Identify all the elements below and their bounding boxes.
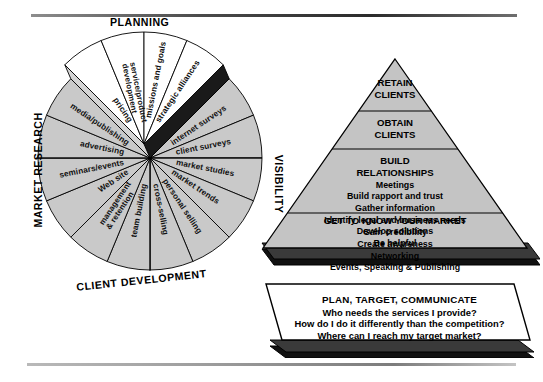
diagram-canvas: pricingservice/product developmentmissio… bbox=[0, 0, 543, 382]
pyramid-obtain-clients-heading-1: CLIENTS bbox=[250, 129, 540, 140]
pyramid-retain-clients-heading-0: RETAIN bbox=[250, 77, 540, 88]
pyramid-get-to-know-your-market-item-2: Networking bbox=[250, 251, 540, 262]
banner-title: PLAN, TARGET, COMMUNICATE bbox=[262, 294, 537, 305]
banner-question-1: How do I do it differently than the comp… bbox=[262, 318, 537, 329]
wheel-section-label-planning: PLANNING bbox=[110, 16, 169, 28]
strategy-wheel: pricingservice/product developmentmissio… bbox=[14, 18, 284, 288]
pyramid-obtain-clients-heading-0: OBTAIN bbox=[250, 117, 540, 128]
pyramid-get-to-know-your-market-item-3: Events, Speaking & Publishing bbox=[250, 262, 540, 273]
pyramid-build-relationships-item-2: Gather information bbox=[250, 203, 540, 214]
strategy-wheel-svg bbox=[14, 18, 284, 288]
pyramid-build-relationships-item-1: Build rapport and trust bbox=[250, 191, 540, 202]
pyramid-build-relationships-item-0: Meetings bbox=[250, 180, 540, 191]
banner-question-0: Who needs the services I provide? bbox=[262, 307, 537, 318]
pyramid-retain-clients-heading-1: CLIENTS bbox=[250, 89, 540, 100]
banner-question-2: Where can I reach my target market? bbox=[262, 330, 537, 341]
pyramid-build-relationships-heading-0: BUILD bbox=[250, 155, 540, 166]
wheel-section-label-market-research: MARKET RESEARCH bbox=[32, 112, 44, 227]
pyramid-get-to-know-your-market-item-0: Gain credibility bbox=[250, 227, 540, 238]
top-divider-rule bbox=[31, 14, 517, 17]
pyramid-get-to-know-your-market-heading-0: GET TO KNOW YOUR MARKET bbox=[250, 215, 540, 226]
plan-target-communicate-banner: PLAN, TARGET, COMMUNICATEWho needs the s… bbox=[262, 282, 537, 358]
marketing-pyramid: RETAINCLIENTSOBTAINCLIENTSBUILDRELATIONS… bbox=[250, 55, 540, 280]
pyramid-build-relationships-heading-1: RELATIONSHIPS bbox=[250, 167, 540, 178]
pyramid-get-to-know-your-market-item-1: Create awareness bbox=[250, 239, 540, 250]
bottom-divider-rule bbox=[27, 363, 516, 366]
